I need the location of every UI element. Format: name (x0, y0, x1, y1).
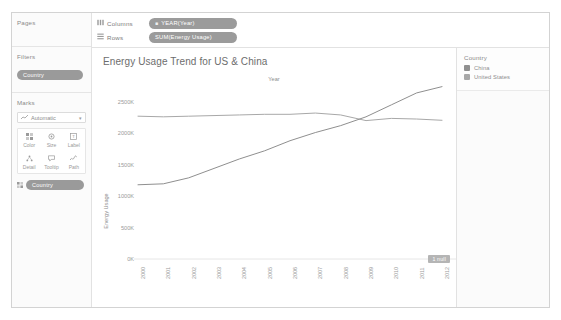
rows-shelf[interactable]: Rows SUM(Energy Usage) (92, 30, 549, 44)
x-axis-tick-label: 2012 (444, 267, 450, 279)
marks-button-path-label: Path (69, 164, 79, 170)
columns-shelf[interactable]: Columns ■ YEAR(Year) (92, 16, 549, 30)
marks-card: Marks Automatic ▾ Color (12, 93, 91, 196)
marks-button-path[interactable]: Path (63, 151, 85, 173)
pages-shelf[interactable]: Pages (12, 13, 91, 47)
filter-pill-country[interactable]: Country (17, 70, 83, 80)
filters-shelf[interactable]: Filters Country (12, 47, 91, 93)
sidebar: Pages Filters Country Marks Automatic ▾ (12, 13, 92, 307)
legend-item-china[interactable]: China (464, 65, 542, 71)
marks-pill-row: Country (17, 180, 86, 190)
marks-property-grid: Color Size T Label (17, 128, 86, 174)
x-axis-tick-label: 2000 (140, 267, 146, 279)
rows-icon (97, 33, 107, 41)
color-icon (25, 132, 34, 140)
marks-button-color[interactable]: Color (18, 129, 40, 151)
columns-pill-year[interactable]: ■ YEAR(Year) (149, 18, 237, 29)
viz-canvas[interactable]: Energy Usage Trend for US & China Year E… (92, 48, 457, 307)
null-indicator-badge[interactable]: 1 null (428, 255, 450, 263)
tableau-worksheet-window: Pages Filters Country Marks Automatic ▾ (11, 12, 550, 308)
columns-icon (97, 19, 107, 27)
x-axis-tick-label: 2009 (368, 267, 374, 279)
legend-swatch (464, 74, 470, 80)
x-axis-tick-label: 2010 (393, 267, 399, 279)
marks-button-tooltip-label: Tooltip (44, 164, 58, 170)
rows-pill-energy-usage[interactable]: SUM(Energy Usage) (149, 32, 237, 43)
marks-pill-country[interactable]: Country (26, 180, 84, 190)
chevron-down-icon: ▾ (79, 115, 82, 121)
svg-text:T: T (72, 134, 75, 139)
work-area: Columns ■ YEAR(Year) Rows SUM(Energy Usa… (92, 13, 549, 307)
filters-shelf-title: Filters (17, 53, 86, 61)
columns-shelf-label: Columns (107, 20, 149, 27)
chart-lines (92, 48, 456, 307)
detail-icon (25, 154, 34, 162)
marks-button-size[interactable]: Size (40, 129, 62, 151)
x-axis-tick-label: 2002 (191, 267, 197, 279)
x-axis-tick-label: 2011 (419, 267, 425, 279)
rows-pill-label: SUM(Energy Usage) (155, 32, 212, 43)
shelf-container: Columns ■ YEAR(Year) Rows SUM(Energy Usa… (92, 13, 549, 48)
marks-button-size-label: Size (47, 142, 57, 148)
mark-type-label: Automatic (31, 115, 79, 121)
columns-pill-label: YEAR(Year) (161, 18, 194, 29)
marks-button-detail-label: Detail (23, 164, 36, 170)
x-axis-tick-label: 2003 (216, 267, 222, 279)
legend-panel: Country China United States (457, 48, 549, 307)
legend-empty-area (457, 91, 549, 307)
line-mark-icon (21, 115, 28, 121)
size-icon (47, 132, 56, 140)
plot-area (92, 48, 456, 307)
line-series[interactable] (138, 113, 442, 121)
legend-card-country: Country China United States (457, 48, 549, 91)
marks-button-label-label: Label (68, 142, 80, 148)
x-axis-tick-label: 2004 (241, 267, 247, 279)
legend-item-united-states[interactable]: United States (464, 74, 542, 80)
legend-swatch (464, 65, 470, 71)
path-icon (69, 154, 78, 162)
sidebar-spacer (12, 196, 91, 307)
mark-type-dropdown[interactable]: Automatic ▾ (17, 112, 86, 123)
pages-shelf-title: Pages (17, 19, 86, 27)
legend-title: Country (464, 54, 542, 61)
marks-card-title: Marks (17, 99, 86, 107)
marks-button-tooltip[interactable]: Tooltip (40, 151, 62, 173)
color-icon (17, 182, 23, 189)
label-icon: T (69, 132, 78, 140)
x-axis-tick-label: 2005 (267, 267, 273, 279)
line-series[interactable] (138, 87, 442, 185)
rows-shelf-label: Rows (107, 34, 149, 41)
x-axis-tick-label: 2007 (317, 267, 323, 279)
x-axis-tick-label: 2006 (292, 267, 298, 279)
calendar-icon: ■ (155, 18, 158, 29)
marks-button-label[interactable]: T Label (63, 129, 85, 151)
marks-button-detail[interactable]: Detail (18, 151, 40, 173)
legend-item-label: United States (474, 74, 510, 80)
x-axis-tick-label: 2008 (343, 267, 349, 279)
x-axis-tick-label: 2001 (165, 267, 171, 279)
tooltip-icon (47, 154, 56, 162)
marks-button-color-label: Color (23, 142, 35, 148)
canvas-row: Energy Usage Trend for US & China Year E… (92, 48, 549, 307)
legend-item-label: China (474, 65, 490, 71)
